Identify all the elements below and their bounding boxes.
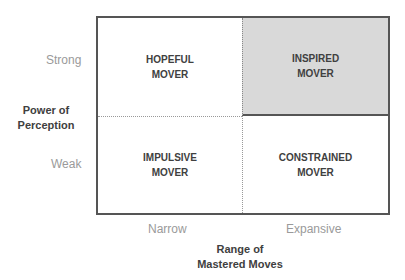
quadrant-label-line1: IMPULSIVE	[143, 152, 197, 163]
quadrant-label-line2: MOVER	[152, 167, 189, 178]
matrix-grid: HOPEFULMOVER INSPIREDMOVER IMPULSIVEMOVE…	[96, 16, 390, 215]
quadrant-label-line1: CONSTRAINED	[279, 152, 352, 163]
y-axis-title-line1: Power of	[23, 104, 69, 116]
x-axis-high-label: Expansive	[286, 222, 341, 236]
quadrant-hopeful-mover: HOPEFULMOVER	[98, 18, 242, 116]
quadrant-inspired-mover: INSPIREDMOVER	[242, 18, 388, 116]
quadrant-label-line1: HOPEFUL	[146, 54, 194, 65]
quadrant-label-line2: MOVER	[297, 68, 334, 79]
x-axis-title-line2: Mastered Moves	[197, 258, 283, 270]
x-axis-title-line1: Range of	[216, 243, 263, 255]
y-axis-title: Power ofPerception	[10, 103, 82, 133]
y-axis-title-line2: Perception	[18, 119, 75, 131]
y-axis-low-label: Weak	[51, 157, 81, 171]
quadrant-impulsive-mover: IMPULSIVEMOVER	[98, 116, 242, 213]
quadrant-constrained-mover: CONSTRAINEDMOVER	[242, 116, 388, 213]
quadrant-label-line2: MOVER	[297, 167, 334, 178]
x-axis-title: Range ofMastered Moves	[190, 242, 290, 272]
y-axis-high-label: Strong	[46, 53, 81, 67]
x-axis-low-label: Narrow	[148, 222, 187, 236]
quadrant-label-line2: MOVER	[152, 69, 189, 80]
quadrant-label-line1: INSPIRED	[292, 53, 339, 64]
